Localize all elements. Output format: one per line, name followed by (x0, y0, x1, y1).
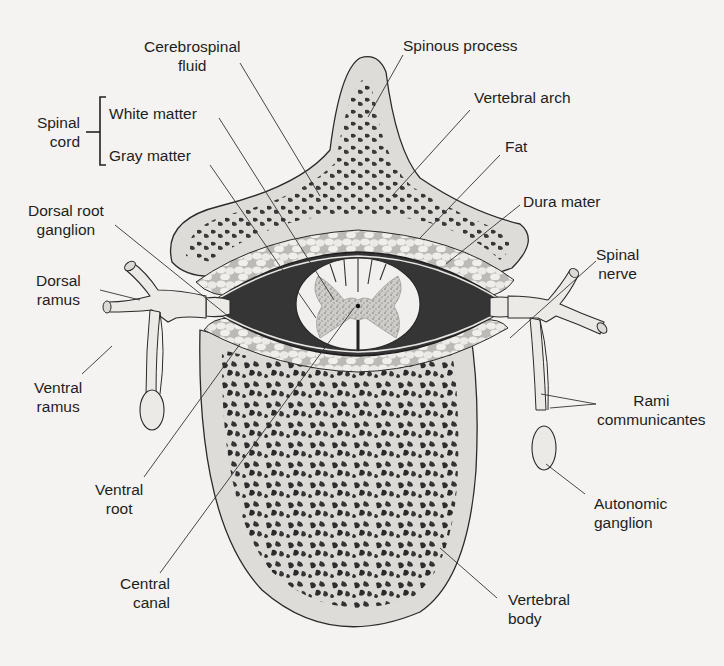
label-spinal-nerve: Spinal nerve (596, 245, 639, 283)
label-spinous-process: Spinous process (403, 36, 518, 55)
label-dorsal-ramus: Dorsal ramus (36, 271, 81, 309)
label-line: Rami (597, 391, 706, 410)
label-vertebral-body: Vertebral body (508, 590, 570, 628)
label-line: cord (22, 132, 80, 151)
label-line: Autonomic (594, 494, 667, 513)
label-line: Ventral (34, 378, 82, 397)
label-dorsal-root-ganglion: Dorsal root ganglion (28, 201, 104, 239)
label-line: ramus (36, 290, 81, 309)
label-line: body (508, 609, 570, 628)
label-dura-mater: Dura mater (523, 192, 601, 211)
vertebra-illustration (0, 0, 724, 666)
label-central-canal: Central canal (100, 574, 170, 612)
central-canal-dot (356, 304, 360, 308)
left-autonomic-ganglion-shape (140, 390, 164, 430)
label-rami-communicantes: Rami communicantes (597, 391, 706, 429)
right-spinal-nerve-shape (508, 270, 604, 334)
spinal-cord-bracket (86, 97, 106, 165)
right-autonomic-ganglion-shape (532, 426, 556, 470)
label-line: Spinal (596, 245, 639, 264)
label-line: Spinal (22, 113, 80, 132)
label-autonomic-ganglion: Autonomic ganglion (594, 494, 667, 532)
label-ventral-ramus: Ventral ramus (34, 378, 82, 416)
spinal-anatomy-diagram: Cerebrospinal fluid Spinous process Vert… (0, 0, 724, 666)
label-line: Cerebrospinal (144, 37, 241, 56)
label-line: canal (100, 593, 170, 612)
label-line: Central (100, 574, 170, 593)
label-line: nerve (596, 264, 639, 283)
label-line: fluid (144, 56, 241, 75)
label-vertebral-arch: Vertebral arch (474, 88, 571, 107)
label-line: ganglion (28, 220, 104, 239)
label-cerebrospinal-fluid: Cerebrospinal fluid (144, 37, 241, 75)
label-fat: Fat (505, 137, 527, 156)
label-white-matter: White matter (109, 104, 197, 123)
label-line: ganglion (594, 513, 667, 532)
label-spinal-cord-group: Spinal cord (22, 113, 80, 151)
label-ventral-root: Ventral root (95, 480, 143, 518)
label-line: Dorsal (36, 271, 81, 290)
label-line: Dorsal root (28, 201, 104, 220)
label-line: Ventral (95, 480, 143, 499)
label-line: Vertebral (508, 590, 570, 609)
label-line: ramus (34, 397, 82, 416)
label-line: communicantes (597, 410, 706, 429)
label-gray-matter: Gray matter (109, 146, 191, 165)
label-line: root (95, 499, 143, 518)
